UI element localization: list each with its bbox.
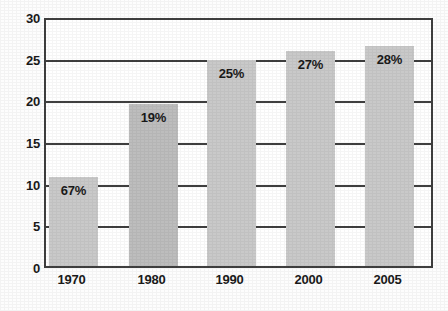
y-axis-tick-label: 10: [2, 177, 40, 192]
bar-value-label: 67%: [49, 183, 98, 198]
bar-value-label: 25%: [207, 66, 256, 81]
y-axis-tick-label: 0: [2, 261, 40, 276]
y-axis: 30 25 20 15 10 5 0: [0, 18, 40, 268]
y-axis-tick-label: 15: [2, 136, 40, 151]
x-axis-tick-label: 1990: [205, 272, 254, 287]
bar-1980: 19%: [129, 104, 178, 267]
x-axis-tick-label: 1980: [127, 272, 176, 287]
y-axis-tick-label: 25: [2, 52, 40, 67]
plot-area: 67% 19% 25% 27% 28%: [44, 18, 433, 268]
bar-1990: 25%: [207, 60, 256, 266]
x-axis-tick-label: 1970: [47, 272, 96, 287]
bar-value-label: 19%: [129, 110, 178, 125]
x-axis-tick-label: 2000: [284, 272, 333, 287]
y-axis-tick-label: 5: [2, 219, 40, 234]
x-axis-tick-label: 2005: [363, 272, 412, 287]
bar-2000: 27%: [286, 51, 335, 266]
y-axis-tick-label: 20: [2, 94, 40, 109]
bar-value-label: 27%: [286, 57, 335, 72]
bar-value-label: 28%: [365, 52, 414, 67]
y-axis-tick-label: 30: [2, 11, 40, 26]
bar-chart: 30 25 20 15 10 5 0 67% 19% 25% 27% 28% 1: [0, 0, 448, 311]
bar-1970: 67%: [49, 177, 98, 266]
x-axis: 1970 1980 1990 2000 2005: [44, 272, 433, 296]
bar-2005: 28%: [365, 46, 414, 266]
